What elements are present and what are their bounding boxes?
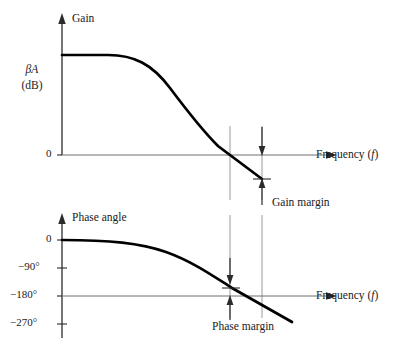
phase-tick-label-minus90: −90° xyxy=(18,261,40,273)
gain-y-axis-unit-line2: (dB) xyxy=(6,78,58,94)
phase-curve xyxy=(62,240,292,322)
phase-tick-label-0: 0 xyxy=(46,233,52,245)
gain-y-axis-title: Gain xyxy=(72,12,94,24)
phase-x-axis-title-text: Frequency ( xyxy=(316,289,371,301)
gain-magnitude-curve xyxy=(62,55,262,179)
gain-y-axis-unit-label: βA (dB) xyxy=(6,62,58,93)
phase-x-axis-title: Frequency (f) xyxy=(316,289,378,301)
phase-plot-group xyxy=(57,213,337,338)
phase-y-axis-arrowhead xyxy=(58,213,65,224)
phase-tick-label-minus180: −180° xyxy=(10,289,37,301)
gain-tick-label-zero: 0 xyxy=(46,148,52,160)
gain-margin-annotation: Gain margin xyxy=(272,196,330,208)
gain-y-axis-unit-line1: βA xyxy=(6,62,58,78)
phase-margin-upper-arrowhead xyxy=(227,275,234,285)
gain-y-axis-arrowhead xyxy=(58,13,65,24)
gain-x-axis-title: Frequency (f) xyxy=(316,148,378,160)
phase-tick-label-minus270: −270° xyxy=(10,317,37,329)
bode-plot-figure: Gain βA (dB) 0 Frequency (f) Gain margin… xyxy=(0,0,396,353)
phase-margin-annotation: Phase margin xyxy=(212,320,274,332)
gain-plot-group xyxy=(57,13,337,205)
gain-x-axis-title-text: Frequency ( xyxy=(316,148,371,160)
phase-x-axis-title-close: ) xyxy=(374,289,378,301)
phase-y-axis-title: Phase angle xyxy=(72,211,127,223)
gain-x-axis-title-close: ) xyxy=(374,148,378,160)
